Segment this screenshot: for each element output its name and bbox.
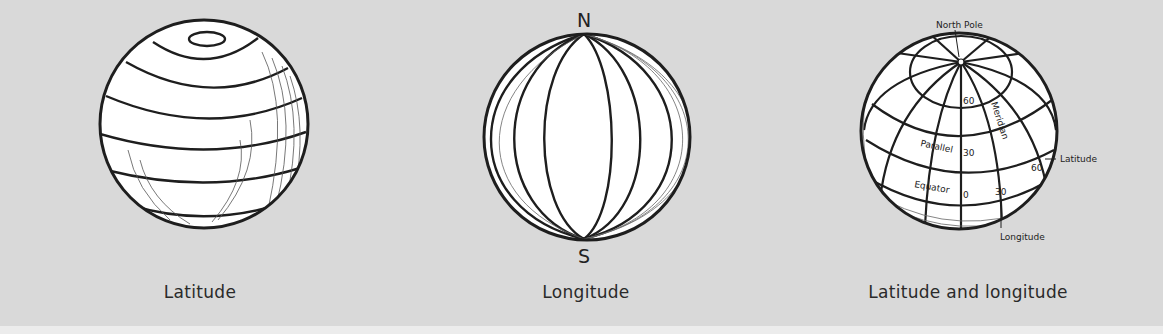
latitude-callout-label: Latitude bbox=[1060, 154, 1098, 164]
longitude-caption: Longitude bbox=[542, 282, 629, 302]
latitude-panel: Latitude bbox=[0, 0, 400, 326]
longitude-globe-icon: N S bbox=[400, 0, 780, 280]
lon-30-label: 30 bbox=[995, 187, 1007, 197]
longitude-panel: N S Longitude bbox=[400, 0, 780, 326]
longitude-callout-label: Longitude bbox=[1000, 232, 1045, 242]
latlon-globe-icon: North Pole 60 Meridian Parallel 30 Equat… bbox=[780, 0, 1163, 280]
latitude-and-longitude-caption: Latitude and longitude bbox=[868, 282, 1067, 302]
bottom-strip bbox=[0, 326, 1163, 334]
north-pole-label: North Pole bbox=[936, 20, 983, 30]
south-label: S bbox=[578, 245, 590, 267]
latitude-globe-icon bbox=[0, 0, 400, 280]
latitude-and-longitude-panel: North Pole 60 Meridian Parallel 30 Equat… bbox=[780, 0, 1163, 326]
lat-60-label: 60 bbox=[963, 96, 975, 106]
lat-0-label: 0 bbox=[963, 190, 969, 200]
lat-30-label: 30 bbox=[963, 148, 975, 158]
north-label: N bbox=[577, 9, 591, 31]
lon-60-label: 60 bbox=[1031, 163, 1043, 173]
latitude-caption: Latitude bbox=[164, 282, 236, 302]
